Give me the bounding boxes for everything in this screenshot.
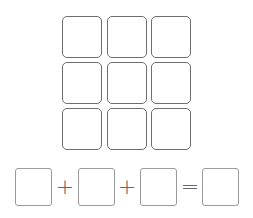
grid-cell-2-1[interactable] xyxy=(62,62,102,104)
plus-sign: + xyxy=(54,172,76,202)
addend-box-2[interactable] xyxy=(78,168,115,206)
equals-sign: = xyxy=(179,172,201,202)
grid-cell-2-3[interactable] xyxy=(151,62,191,104)
grid-cell-3-1[interactable] xyxy=(62,108,102,150)
sum-box[interactable] xyxy=(202,168,239,206)
plus-sign: + xyxy=(116,172,138,202)
grid-cell-2-2[interactable] xyxy=(107,62,147,104)
grid-cell-1-2[interactable] xyxy=(107,16,147,58)
addend-box-1[interactable] xyxy=(15,168,52,206)
grid-cell-3-3[interactable] xyxy=(151,108,191,150)
grid-cell-3-2[interactable] xyxy=(107,108,147,150)
magic-square-grid xyxy=(62,16,192,152)
grid-cell-1-3[interactable] xyxy=(151,16,191,58)
addend-box-3[interactable] xyxy=(140,168,177,206)
grid-cell-1-1[interactable] xyxy=(62,16,102,58)
